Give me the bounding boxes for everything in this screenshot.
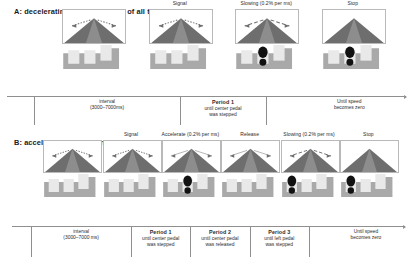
stage-cell: Release [221, 131, 278, 196]
stage-cell: Signal [103, 131, 160, 196]
pedal-assembly [103, 173, 160, 198]
figure-root: A: decelerating condition (90% of all tr… [0, 0, 420, 263]
road-scene [221, 140, 280, 173]
segment-line: (3000–7000ms) [34, 105, 179, 111]
timeline-segment: interval(3000–7000 ms) [31, 229, 131, 241]
pedal-assembly [162, 173, 219, 198]
stage-cell [43, 131, 100, 196]
road-scene [162, 140, 221, 173]
stage-label: Slowing (0.2% per ms) [283, 131, 334, 137]
pedal-assembly [340, 173, 397, 198]
road-scene [235, 9, 299, 44]
road-scene [281, 140, 340, 173]
stage-label: Accelerate (0.2% per ms) [162, 131, 220, 137]
stage-cell: Accelerate (0.2% per ms) [162, 131, 219, 196]
pedal-assembly [62, 44, 124, 70]
stage-cell: Slowing (0.2% per ms) [235, 0, 297, 68]
stage-label: Slowing (0.2% per ms) [241, 0, 292, 6]
segment-heading: Period 1 [212, 99, 234, 105]
road-scene [103, 140, 162, 173]
segment-heading: Period 3 [268, 229, 290, 235]
timeline-segment: interval(3000–7000ms) [34, 99, 179, 111]
road-scene [62, 9, 126, 44]
timeline-segment: Period 2until center pedalwas released [190, 229, 249, 249]
pedal-assembly [281, 173, 338, 198]
segment-line: was stepped [131, 242, 190, 248]
panel-decelerating: A: decelerating condition (90% of all tr… [0, 0, 420, 131]
timeline-segment: Period 3until left pedalwas stepped [250, 229, 309, 249]
stage-cell: Slowing (0.2% per ms) [281, 131, 338, 196]
timeline-axis [7, 96, 407, 97]
pedal-assembly [235, 44, 297, 70]
segment-heading: Period 2 [209, 229, 231, 235]
road-scene [322, 9, 386, 44]
timeline-axis [12, 226, 405, 227]
stage-cell: Stop [322, 0, 384, 68]
stage-cell: Stop [340, 131, 397, 196]
pedal-assembly [43, 173, 100, 198]
stage-label: Stop [348, 0, 359, 6]
stage-cell [62, 0, 124, 68]
stage-label: Stop [363, 131, 374, 137]
segment-heading: Period 1 [150, 229, 172, 235]
stage-cell: Signal [149, 0, 211, 68]
segment-line: becomes zero [309, 235, 420, 241]
segment-line: becomes zero [266, 105, 420, 111]
stage-label: Signal [124, 131, 138, 137]
pedal-assembly [149, 44, 211, 70]
segment-line: was stepped [180, 112, 267, 118]
segment-line: (3000–7000 ms) [31, 235, 131, 241]
timeline-segment: Period 1until center pedalwas stepped [180, 99, 267, 119]
segment-line: was stepped [250, 242, 309, 248]
road-scene [340, 140, 399, 173]
stage-label: Signal [173, 0, 187, 6]
timeline-segment: Period 1until center pedalwas stepped [131, 229, 190, 249]
timeline-segment: Until speedbecomes zero [266, 99, 420, 111]
timeline-segment: Until speedbecomes zero [309, 229, 420, 241]
pedal-assembly [221, 173, 278, 198]
segment-line: was released [190, 242, 249, 248]
road-scene [43, 140, 102, 173]
panel-accelerating: B: accelerating condition (10% of all tr… [0, 131, 420, 263]
stage-label: Release [240, 131, 259, 137]
pedal-assembly [322, 44, 384, 70]
road-scene [149, 9, 213, 44]
